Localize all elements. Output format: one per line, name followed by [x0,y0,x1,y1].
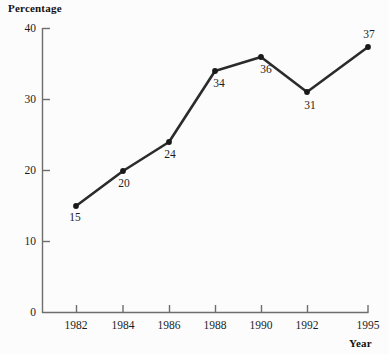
point-label-1988: 34 [206,78,232,90]
line-chart-plot [0,0,389,354]
x-tick-label-1986: 1986 [149,320,189,332]
y-tick-label-30: 30 [12,94,36,106]
y-tick-label-10: 10 [12,236,36,248]
point-label-1986: 24 [157,149,183,161]
x-tick-label-1992: 1992 [287,320,327,332]
x-axis-ticks [77,305,369,313]
point-label-1995: 37 [356,29,382,41]
point-label-1982: 15 [62,212,88,224]
point-label-1990: 36 [253,64,279,76]
point-label-1984: 20 [111,178,137,190]
chart-screenshot: Percentage Year [0,0,389,354]
point-label-1992: 31 [297,100,323,112]
y-axis-ticks [43,29,51,242]
x-tick-label-1990: 1990 [241,320,281,332]
x-tick-label-1995: 1995 [348,320,388,332]
x-tick-label-1982: 1982 [56,320,96,332]
x-tick-label-1984: 1984 [103,320,143,332]
y-tick-label-20: 20 [12,165,36,177]
x-tick-label-1988: 1988 [195,320,235,332]
y-tick-label-0: 0 [12,307,36,319]
y-tick-label-40: 40 [12,23,36,35]
